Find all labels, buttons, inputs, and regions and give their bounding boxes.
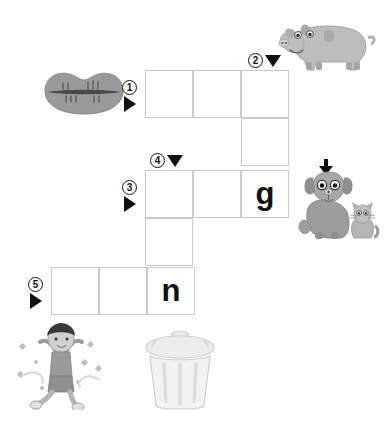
worksheet-canvas: g n 1 2 3 4 5	[0, 0, 385, 421]
grid-cell-r5c3[interactable]: n	[147, 267, 195, 315]
grid-cell-r5c2[interactable]	[99, 267, 147, 315]
clue-number-3: 3	[122, 180, 137, 195]
lips-icon	[42, 62, 126, 120]
dog-and-cat-icon	[297, 158, 383, 246]
arrow-right-icon	[124, 96, 136, 112]
clue-marker-4[interactable]: 4	[150, 153, 183, 168]
clue-number-4: 4	[150, 153, 165, 168]
grid-cell-r2c3[interactable]	[241, 118, 289, 166]
clue-marker-3[interactable]: 3	[122, 180, 137, 212]
arrow-right-icon	[30, 293, 42, 309]
arrow-down-icon	[265, 55, 281, 67]
trash-can-picture	[136, 326, 224, 412]
grid-cell-r1c1[interactable]	[145, 70, 193, 118]
pig-icon	[272, 12, 378, 78]
clue-marker-2[interactable]: 2	[248, 53, 281, 68]
lips-picture	[42, 62, 126, 120]
grid-cell-r1c2[interactable]	[193, 70, 241, 118]
clue-number-1: 1	[122, 80, 137, 95]
cell-letter: n	[162, 275, 181, 306]
arrow-right-icon	[124, 196, 136, 212]
jumping-child-picture	[12, 322, 110, 410]
clue-number-5: 5	[28, 277, 43, 292]
grid-cell-r3c1[interactable]	[145, 170, 193, 218]
grid-cell-r4c1[interactable]	[145, 218, 193, 266]
grid-cell-r5c1[interactable]	[51, 267, 99, 315]
dog-and-cat-picture	[297, 158, 383, 246]
pig-picture	[272, 12, 378, 78]
trash-can-icon	[136, 326, 224, 412]
grid-cell-r3c2[interactable]	[193, 170, 241, 218]
clue-number-2: 2	[248, 53, 263, 68]
grid-cell-r3c3[interactable]: g	[241, 170, 289, 218]
clue-marker-1[interactable]: 1	[122, 80, 137, 112]
cell-letter: g	[256, 178, 275, 209]
clue-marker-5[interactable]: 5	[28, 277, 43, 309]
jumping-child-icon	[12, 322, 110, 410]
grid-cell-r1c3[interactable]	[241, 70, 289, 118]
arrow-down-icon	[167, 155, 183, 167]
